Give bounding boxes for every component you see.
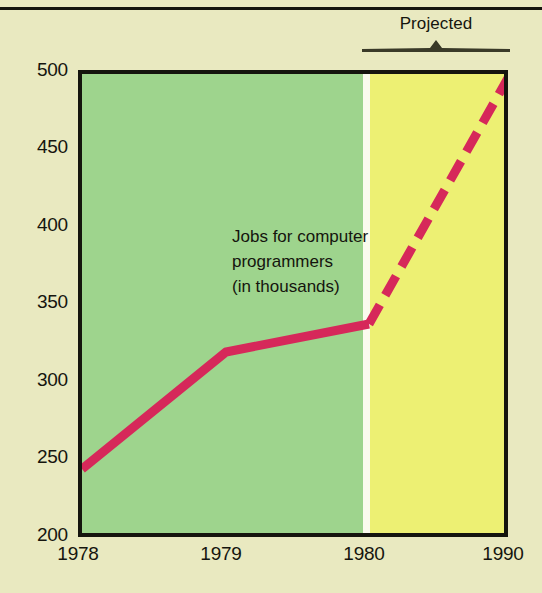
plot-caption-line-1: Jobs for computer bbox=[232, 224, 368, 249]
x-tick-label-1980: 1980 bbox=[319, 543, 409, 565]
plot-area: Jobs for computer programmers (in thousa… bbox=[78, 70, 508, 537]
x-tick-label-1990: 1990 bbox=[458, 543, 542, 565]
projected-bracket-icon bbox=[362, 40, 510, 54]
y-tick-label-350: 350 bbox=[6, 291, 68, 313]
y-tick-label-500: 500 bbox=[6, 59, 68, 81]
top-rule-divider bbox=[0, 7, 542, 10]
projected-annotation: Projected bbox=[360, 14, 512, 58]
chart-figure: Projected 500 450 400 350 300 250 200 Jo… bbox=[0, 0, 542, 593]
y-tick-label-450: 450 bbox=[6, 136, 68, 158]
series-projected-line bbox=[369, 78, 508, 324]
plot-caption-line-2: programmers bbox=[232, 249, 368, 274]
x-tick-label-1979: 1979 bbox=[176, 543, 266, 565]
plot-caption-line-3: (in thousands) bbox=[232, 274, 368, 299]
y-tick-label-400: 400 bbox=[6, 214, 68, 236]
y-tick-label-250: 250 bbox=[6, 446, 68, 468]
series-lines bbox=[82, 74, 508, 537]
plot-caption: Jobs for computer programmers (in thousa… bbox=[232, 224, 368, 299]
y-tick-label-300: 300 bbox=[6, 369, 68, 391]
series-actual-line bbox=[82, 324, 369, 469]
projected-label: Projected bbox=[360, 14, 512, 34]
x-tick-label-1978: 1978 bbox=[33, 543, 123, 565]
